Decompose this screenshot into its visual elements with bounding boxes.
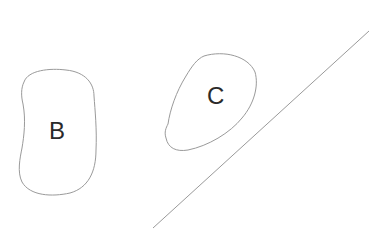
region-b-label: B xyxy=(49,117,65,144)
region-c: C xyxy=(165,54,256,151)
diagram-canvas: B C xyxy=(0,0,374,242)
region-c-label: C xyxy=(207,82,224,109)
region-b: B xyxy=(19,69,96,195)
diagonal-line xyxy=(153,31,369,228)
